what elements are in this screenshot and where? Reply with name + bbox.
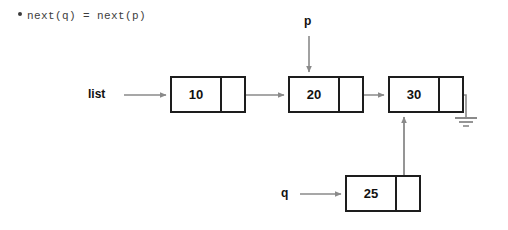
list-node: 20 <box>288 76 364 113</box>
bullet-dot-icon <box>18 12 22 16</box>
list-node: 25 <box>345 175 421 212</box>
node-data-cell: 25 <box>347 177 397 210</box>
node-data-cell: 20 <box>290 78 340 111</box>
bullet-text: next(q) = next(p) <box>27 10 146 22</box>
pointer-label-p: p <box>304 14 311 28</box>
bullet-line: next(q) = next(p) <box>18 10 146 22</box>
node-pointer-cell <box>340 78 362 111</box>
node-data-cell: 10 <box>172 78 222 111</box>
diagram-wires <box>0 0 508 230</box>
node-pointer-cell <box>222 78 244 111</box>
list-node: 30 <box>388 76 464 113</box>
node-data-cell: 30 <box>390 78 440 111</box>
pointer-label-q: q <box>281 186 288 200</box>
list-node: 10 <box>170 76 246 113</box>
ground-symbol <box>455 118 477 126</box>
node-pointer-cell <box>397 177 419 210</box>
diagram-canvas: next(q) = next(p) <box>0 0 508 230</box>
pointer-label-list: list <box>88 87 105 101</box>
node-pointer-cell <box>440 78 462 111</box>
